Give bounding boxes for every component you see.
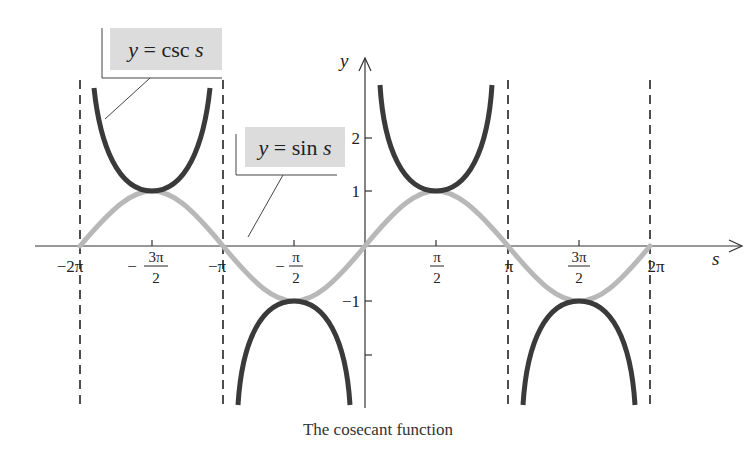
svg-text:2: 2: [575, 270, 583, 286]
csc-branch-3: [380, 85, 492, 191]
svg-text:2: 2: [352, 129, 361, 148]
svg-text:π: π: [433, 249, 441, 265]
svg-text:−1: −1: [342, 292, 360, 311]
svg-text:3π: 3π: [148, 249, 164, 265]
svg-text:π: π: [292, 249, 300, 265]
svg-text:1: 1: [352, 182, 361, 201]
svg-text:2π: 2π: [647, 257, 665, 276]
y-axis-label: y: [338, 50, 349, 71]
svg-text:2: 2: [433, 270, 441, 286]
svg-text:2: 2: [292, 270, 300, 286]
sin-label: y = sin s: [257, 135, 332, 160]
cosecant-chart: y = csc s y = sin s s y −2π − 3π 2 −π − …: [0, 0, 756, 450]
svg-text:−: −: [127, 257, 137, 276]
svg-text:2: 2: [152, 270, 160, 286]
svg-text:−2π: −2π: [57, 257, 84, 276]
csc-branch-4: [523, 301, 635, 405]
csc-branch-1: [94, 88, 210, 191]
svg-text:3π: 3π: [571, 249, 587, 265]
svg-text:−: −: [275, 257, 285, 276]
csc-branch-2: [238, 301, 350, 405]
svg-text:π: π: [505, 257, 514, 276]
axes: [35, 58, 742, 408]
svg-text:−π: −π: [208, 257, 227, 276]
figure-caption: The cosecant function: [0, 420, 756, 440]
csc-label: y = csc s: [126, 37, 203, 62]
x-axis-label: s: [712, 248, 719, 269]
